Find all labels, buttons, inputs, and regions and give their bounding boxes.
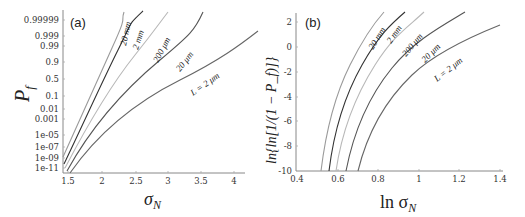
x-tick: 3.5 <box>194 176 208 186</box>
curve-200um <box>65 12 168 168</box>
y-tick: 1e-11 <box>35 163 59 173</box>
x-tick: 0.8 <box>371 174 385 184</box>
x-axis-label: ln σN <box>380 192 417 215</box>
y-tick: 0.999 <box>35 31 59 41</box>
curve-label: 20 μm <box>174 49 196 73</box>
curve-label: 200 μm <box>151 35 173 64</box>
y-axis-label: Pf <box>11 84 37 103</box>
x-tick: 1.2 <box>452 174 466 184</box>
curve-label: L = 2 μm <box>431 55 464 84</box>
y-tick: 0.99 <box>40 41 59 51</box>
y-tick: -2 <box>284 67 292 77</box>
y-tick: -6 <box>284 116 292 126</box>
x-tick: 4 <box>231 176 236 186</box>
x-tick: 0.6 <box>331 174 345 184</box>
curve-20um <box>346 12 465 171</box>
y-tick: -8 <box>284 141 292 151</box>
y-tick: 2 <box>287 17 292 27</box>
x-ticks: 0.4 0.6 0.8 1 1.2 1.4 <box>290 174 507 184</box>
y-tick: 1e-09 <box>35 153 59 163</box>
panel-label: (a) <box>70 15 86 30</box>
x-tick: 0.4 <box>290 174 304 184</box>
x-axis-label: σN <box>144 189 162 212</box>
y-tick: 0.001 <box>35 114 59 124</box>
y-ticks: 2 0 -2 -4 -6 -8 -10 <box>278 17 292 176</box>
y-tick: -4 <box>284 92 292 102</box>
curve-label: 20 μm <box>419 41 442 64</box>
figure: 0.99999 0.999 0.99 0.9 0.5 0.1 0.01 0.00… <box>0 0 525 217</box>
y-tick: 0.1 <box>45 91 59 101</box>
curve-label: 2 mm <box>130 28 146 50</box>
y-tick: 0.9 <box>45 57 59 67</box>
x-tick: 1 <box>416 174 421 184</box>
x-tick: 2 <box>99 176 104 186</box>
y-axis-label: ln{ln[1/(1 − P_f)]} <box>264 57 280 164</box>
panel-label: (b) <box>305 15 321 30</box>
y-tick: 0 <box>287 42 292 52</box>
y-tick: 0.99999 <box>24 15 59 25</box>
curve-label: 2 mm <box>384 23 404 45</box>
y-tick: 1e-05 <box>35 130 59 140</box>
x-tick: 1.5 <box>61 176 75 186</box>
curve-2mm <box>64 11 143 164</box>
y-tick: 0.01 <box>40 104 59 114</box>
curve-label: 20 mm <box>118 20 133 46</box>
curves <box>63 11 258 173</box>
curve-label: L = 2 μm <box>188 70 222 98</box>
panel-b: 2 0 -2 -4 -6 -8 -10 0.4 0.6 0.8 1 1.2 1.… <box>264 12 507 215</box>
x-tick: 3 <box>165 176 170 186</box>
curve-20mm <box>63 12 124 157</box>
x-tick: 2.5 <box>129 176 143 186</box>
y-tick: 0.5 <box>45 74 59 84</box>
panel-a: 0.99999 0.999 0.99 0.9 0.5 0.1 0.01 0.00… <box>11 10 258 212</box>
curves <box>321 12 500 171</box>
y-tick: 1e-07 <box>35 142 59 152</box>
x-tick: 1.4 <box>493 174 507 184</box>
